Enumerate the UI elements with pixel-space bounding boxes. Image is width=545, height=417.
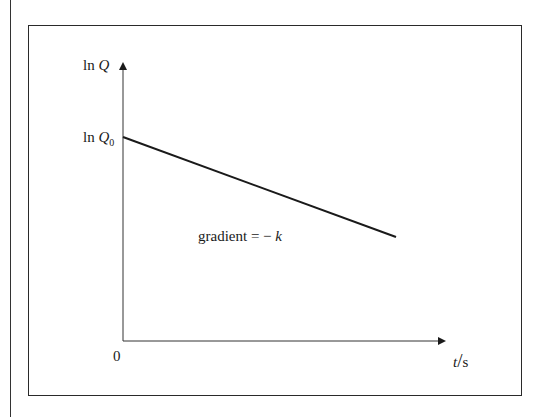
x-axis-label: t/s xyxy=(453,351,468,370)
x-axis-label-unit: s xyxy=(462,354,468,370)
y-intercept-label: ln Q0 xyxy=(83,130,114,145)
gradient-label: gradient = − k xyxy=(198,229,282,244)
origin-label: 0 xyxy=(113,349,121,364)
y-intercept-sub: 0 xyxy=(109,137,114,148)
y-intercept-prefix: ln xyxy=(83,129,95,145)
y-intercept-var: Q xyxy=(98,129,109,145)
gradient-text: gradient = xyxy=(198,228,263,244)
y-axis-label-var: Q xyxy=(98,57,109,73)
y-axis-label-prefix: ln xyxy=(83,57,95,73)
data-line xyxy=(123,137,396,237)
gradient-minus: − xyxy=(263,228,271,244)
y-axis-label: ln Q xyxy=(83,58,109,73)
gradient-var: k xyxy=(275,228,282,244)
